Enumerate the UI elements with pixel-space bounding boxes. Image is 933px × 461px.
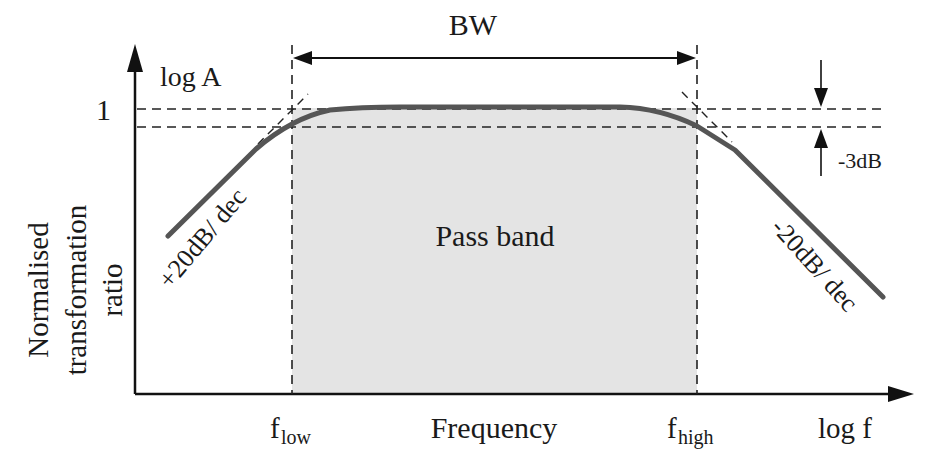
- svg-text:high: high: [678, 426, 714, 449]
- svg-text:f: f: [667, 412, 677, 444]
- svg-text:f: f: [270, 412, 280, 444]
- y-axis-top-label: log A: [160, 61, 222, 92]
- f-high-label: f high: [667, 412, 714, 449]
- x-axis-title: Frequency: [431, 411, 558, 444]
- x-axis-end-label: log f: [818, 412, 872, 444]
- bandpass-diagram: BW log A 1 -3dB Pass band +20dB/ dec -20…: [0, 0, 933, 461]
- minus3db-label: -3dB: [838, 148, 882, 173]
- bandwidth-arrow: [293, 51, 696, 65]
- pass-band-label: Pass band: [435, 219, 554, 252]
- bandwidth-label: BW: [449, 8, 498, 41]
- y-axis: [127, 44, 143, 394]
- svg-text:Normalised: Normalised: [22, 222, 54, 358]
- minus3db-arrows: [814, 60, 828, 176]
- svg-text:low: low: [281, 426, 312, 448]
- svg-text:transformation: transformation: [60, 204, 92, 375]
- y-unity-label: 1: [96, 93, 111, 126]
- f-low-label: f low: [270, 412, 312, 448]
- svg-text:ratio: ratio: [96, 263, 128, 316]
- y-axis-title: Normalised transformation ratio: [22, 204, 128, 375]
